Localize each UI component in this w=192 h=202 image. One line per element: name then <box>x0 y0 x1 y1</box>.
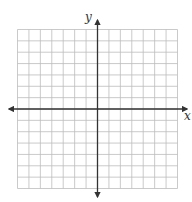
coordinate-plane: y x <box>0 0 192 202</box>
y-axis-label: y <box>84 10 92 24</box>
x-axis-label: x <box>184 109 191 123</box>
